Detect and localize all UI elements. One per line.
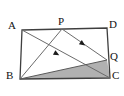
vertex-label-a: A bbox=[8, 20, 16, 31]
vertex-label-d: D bbox=[109, 19, 117, 30]
vertex-label-q: Q bbox=[110, 51, 118, 62]
arrow-marker-on-ac bbox=[53, 50, 61, 57]
vertex-label-p: P bbox=[58, 16, 64, 27]
vertex-label-b: B bbox=[6, 70, 13, 81]
vertex-label-c: C bbox=[112, 70, 119, 81]
geometry-figure: A D B C P Q bbox=[0, 0, 124, 96]
